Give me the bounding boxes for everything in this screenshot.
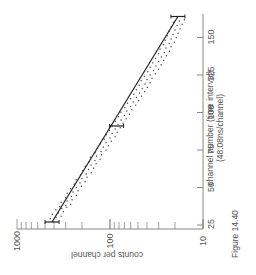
channel-axis-ticks [197, 38, 203, 226]
x-axis-title: channel number (time interval) (48.08ns/… [205, 63, 225, 193]
counts-tick-label: 10 [198, 229, 208, 253]
x-axis-sublabel: (48.08ns/channel) [215, 63, 225, 193]
x-axis-label: channel number (time interval) [205, 63, 215, 193]
channel-tick-label: 150 [206, 27, 216, 47]
figure-caption: Figure 14.40 [230, 204, 240, 264]
counts-tick-label: 1000 [12, 229, 22, 253]
y-axis-label: counts per channel [62, 250, 152, 260]
data-points [50, 19, 186, 219]
fit-line [52, 17, 178, 223]
